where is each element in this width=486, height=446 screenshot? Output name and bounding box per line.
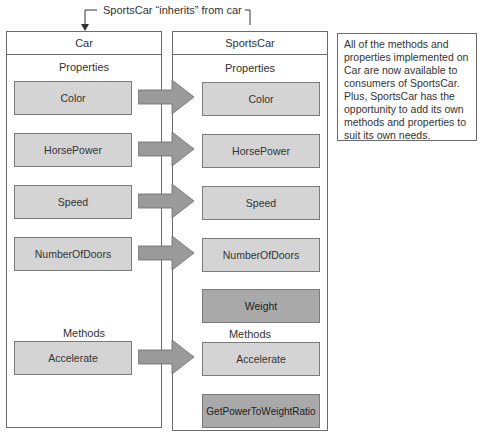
member-color: Color	[14, 81, 132, 115]
arrow-icon	[138, 184, 194, 218]
member-accelerate: Accelerate	[202, 342, 320, 376]
methods-label: Methods	[173, 328, 327, 340]
properties-label: Properties	[7, 61, 161, 73]
member-weight: Weight	[202, 289, 320, 323]
methods-label: Methods	[7, 327, 161, 339]
member-numberofdoors: NumberOfDoors	[202, 238, 320, 272]
arrow-icon	[138, 340, 194, 374]
member-accelerate: Accelerate	[14, 341, 132, 375]
member-color: Color	[202, 82, 320, 116]
member-horsepower: HorsePower	[14, 133, 132, 167]
arrow-icon	[138, 236, 194, 270]
arrow-icon	[138, 80, 194, 114]
arrow-icon	[138, 132, 194, 166]
member-numberofdoors: NumberOfDoors	[14, 237, 132, 271]
member-speed: Speed	[202, 186, 320, 220]
member-speed: Speed	[14, 185, 132, 219]
member-getpowertoweightratio: GetPowerToWeightRatio	[202, 394, 320, 428]
class-title-car: Car	[7, 32, 161, 55]
properties-label: Properties	[173, 62, 327, 74]
member-horsepower: HorsePower	[202, 134, 320, 168]
class-title-sportscar: SportsCar	[173, 32, 327, 55]
class-sportscar: SportsCar Properties Color HorsePower Sp…	[172, 31, 328, 431]
explanation-note: All of the methods and properties implem…	[337, 33, 477, 141]
inheritance-label: SportsCar “inherits” from car	[100, 4, 245, 16]
